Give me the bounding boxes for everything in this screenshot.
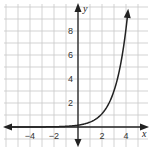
y-axis-label: y — [82, 3, 88, 14]
x-tick-label: 2 — [99, 131, 104, 141]
y-tick-label: 2 — [68, 98, 73, 108]
y-tick-label: 8 — [68, 26, 73, 36]
y-axis-top-arrow-icon — [75, 3, 82, 12]
graph: −4−2242468 x y — [0, 0, 152, 147]
curve-arrow-icon — [124, 9, 131, 18]
y-tick-label: 6 — [68, 50, 73, 60]
x-axis-label: x — [141, 128, 147, 139]
y-tick-label: 4 — [68, 74, 73, 84]
x-tick-label: −2 — [49, 131, 59, 141]
y-axis-bottom-arrow-icon — [75, 139, 82, 147]
x-tick-label: −4 — [25, 131, 35, 141]
x-tick-label: 4 — [123, 131, 128, 141]
exponential-curve — [6, 13, 128, 127]
